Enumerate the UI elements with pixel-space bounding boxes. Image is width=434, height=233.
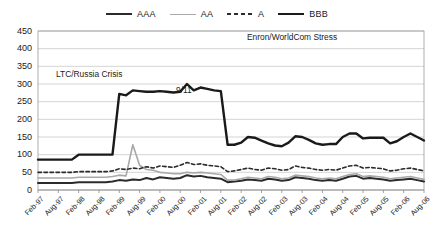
plot-area: 050100150200250300350400450 Feb-97Aug-97… xyxy=(0,0,434,233)
y-axis-tick-label: 400 xyxy=(2,44,32,53)
series-line-bbb xyxy=(38,84,424,160)
gridlines xyxy=(38,31,424,190)
y-axis-tick-label: 200 xyxy=(2,115,32,124)
plot-border xyxy=(38,31,424,190)
y-axis-tick-label: 450 xyxy=(2,27,32,36)
y-axis-tick-label: 100 xyxy=(2,150,32,159)
annotation-ltc-russia-crisis: LTC/Russia Crisis xyxy=(56,70,122,79)
y-axis-tick-label: 300 xyxy=(2,80,32,89)
series-lines xyxy=(38,84,424,183)
credit-spread-chart: AAA AA A BBB 050100150200250300350400450… xyxy=(0,0,434,233)
annotation-september-11: 9/11 xyxy=(176,86,192,95)
y-axis-tick-label: 350 xyxy=(2,62,32,71)
series-line-aa xyxy=(38,145,424,180)
y-axis-tick-label: 150 xyxy=(2,133,32,142)
annotation-enron-worldcom-stress: Enron/WorldCom Stress xyxy=(247,33,337,42)
y-axis-tick-label: 50 xyxy=(2,168,32,177)
y-axis-tick-label: 0 xyxy=(2,186,32,195)
y-axis-tick-label: 250 xyxy=(2,97,32,106)
x-tick-marks xyxy=(38,190,424,193)
series-line-a xyxy=(38,162,424,172)
